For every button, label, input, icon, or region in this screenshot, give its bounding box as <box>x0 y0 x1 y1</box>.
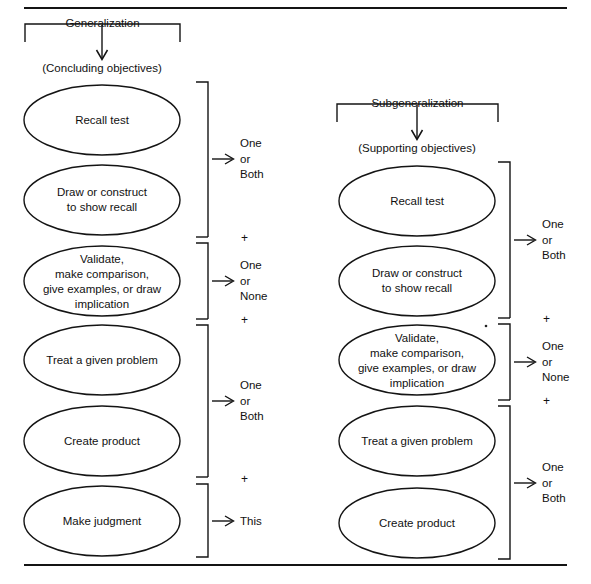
right-bracket-3-label: OneorBoth <box>542 460 566 507</box>
right-connector-1: + <box>543 312 550 326</box>
subgeneralization-subheader-label: (Supporting objectives) <box>327 142 507 154</box>
left-bracket-1-label: OneorBoth <box>240 136 264 183</box>
left-connector-2: + <box>241 313 248 327</box>
left-bracket-arrow-1 <box>212 154 234 164</box>
left-bracket-2-label: OneorNone <box>240 258 268 305</box>
oval-left-5 <box>24 406 180 476</box>
right-bracket-arrow-3 <box>514 478 536 488</box>
generalization-header-label: Generalization <box>25 17 180 29</box>
oval-right-5 <box>339 488 495 558</box>
figure-canvas: Generalization (Concluding objectives) R… <box>0 0 591 584</box>
right-connector-2: + <box>543 394 550 408</box>
oval-right-1 <box>339 166 495 236</box>
left-bracket-arrow-2 <box>212 276 234 286</box>
oval-left-3 <box>24 246 180 316</box>
generalization-down-arrow-icon <box>97 25 108 60</box>
right-bracket-arrow-2 <box>514 357 536 367</box>
oval-left-2 <box>24 165 180 235</box>
stray-mark <box>485 325 488 328</box>
oval-right-3 <box>339 325 495 395</box>
left-bracket-arrow-3 <box>212 396 234 406</box>
left-bracket-3-label: OneorBoth <box>240 378 264 425</box>
oval-right-4 <box>339 406 495 476</box>
right-bracket-1-label: OneorBoth <box>542 217 566 264</box>
left-bracket-arrow-4 <box>212 516 234 526</box>
right-bracket-1 <box>498 162 510 318</box>
left-bracket-3 <box>196 325 208 477</box>
oval-left-4 <box>24 325 180 395</box>
left-bracket-1 <box>196 82 208 237</box>
right-bracket-3 <box>498 406 510 559</box>
subgeneralization-down-arrow-icon <box>412 105 423 140</box>
left-bracket-2 <box>196 243 208 319</box>
left-connector-3: + <box>241 472 248 486</box>
oval-left-1 <box>24 85 180 155</box>
generalization-subheader-label: (Concluding objectives) <box>12 62 192 74</box>
diagram-vector-layer <box>0 0 591 584</box>
right-bracket-arrow-1 <box>514 235 536 245</box>
subgeneralization-header-label: Subgeneralization <box>337 97 498 109</box>
oval-right-2 <box>339 246 495 316</box>
left-connector-1: + <box>241 231 248 245</box>
oval-left-6 <box>24 486 180 556</box>
left-bracket-4 <box>196 484 208 557</box>
right-bracket-2-label: OneorNone <box>542 339 570 386</box>
left-bracket-4-label: This <box>240 514 262 530</box>
right-bracket-2 <box>498 324 510 400</box>
